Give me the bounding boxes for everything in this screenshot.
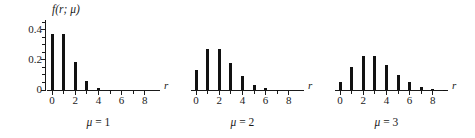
x-axis-minor-tick bbox=[398, 90, 399, 94]
bar-stem bbox=[195, 70, 198, 90]
equals-sign: = bbox=[95, 116, 102, 128]
bar-stem bbox=[350, 67, 353, 90]
x-axis-tick-label: 2 bbox=[68, 94, 82, 106]
x-axis-minor-tick bbox=[230, 90, 231, 94]
x-axis-tick-label: 0 bbox=[333, 94, 347, 106]
y-axis-label: f(r; μ) bbox=[52, 3, 80, 15]
x-axis-name: r bbox=[164, 79, 168, 91]
x-axis-tick-label: 8 bbox=[282, 94, 296, 106]
x-axis-tick-label: 4 bbox=[235, 94, 249, 106]
x-axis-tick-label: 2 bbox=[356, 94, 370, 106]
bar-stem bbox=[62, 34, 65, 90]
mu-value: 3 bbox=[393, 116, 399, 128]
y-axis-minor-tick bbox=[42, 44, 46, 45]
panel-caption: μ = 3 bbox=[326, 116, 446, 128]
bar-stem bbox=[229, 63, 232, 90]
bar-stem bbox=[97, 88, 100, 90]
y-axis-minor-tick bbox=[42, 67, 46, 68]
x-axis-minor-tick bbox=[277, 90, 278, 94]
bar-stem bbox=[431, 89, 434, 90]
y-axis-tick-label: 0 bbox=[16, 83, 42, 95]
bar-stem bbox=[408, 82, 411, 90]
bar-stem bbox=[74, 62, 77, 90]
x-axis-minor-tick bbox=[110, 90, 111, 94]
x-axis-tick-label: 2 bbox=[212, 94, 226, 106]
bar-stem bbox=[339, 82, 342, 90]
bar-stem bbox=[218, 49, 221, 90]
bar-stem bbox=[264, 88, 267, 90]
x-axis-minor-tick bbox=[351, 90, 352, 94]
x-axis-tick-label: 6 bbox=[403, 94, 417, 106]
x-axis-name: r bbox=[452, 79, 456, 91]
bar-stem bbox=[51, 34, 54, 90]
bar-stem bbox=[362, 56, 365, 90]
y-axis-minor-tick bbox=[42, 82, 46, 83]
panel-caption: μ = 2 bbox=[182, 116, 302, 128]
x-axis-name: r bbox=[308, 79, 312, 91]
y-axis-tick-label: 0.2 bbox=[16, 53, 42, 65]
y-axis-line bbox=[45, 20, 46, 91]
bar-stem bbox=[373, 56, 376, 90]
bar-stem bbox=[397, 75, 400, 90]
x-axis-minor-tick bbox=[63, 90, 64, 94]
y-axis-minor-tick bbox=[42, 52, 46, 53]
y-axis-tick-label: 0.4 bbox=[16, 23, 42, 35]
y-axis-minor-tick bbox=[42, 74, 46, 75]
x-axis-tick-label: 0 bbox=[45, 94, 59, 106]
equals-sign: = bbox=[239, 116, 246, 128]
x-axis-minor-tick bbox=[254, 90, 255, 94]
y-axis-minor-tick bbox=[42, 37, 46, 38]
mu-value: 1 bbox=[105, 116, 111, 128]
y-axis-minor-tick bbox=[42, 22, 46, 23]
x-axis-tick-label: 6 bbox=[115, 94, 129, 106]
bar-stem bbox=[420, 87, 423, 90]
equals-sign: = bbox=[383, 116, 390, 128]
x-axis-minor-tick bbox=[86, 90, 87, 94]
panel-caption: μ = 1 bbox=[38, 116, 158, 128]
bar-stem bbox=[85, 81, 88, 90]
x-axis-tick-label: 0 bbox=[189, 94, 203, 106]
bar-stem bbox=[385, 65, 388, 90]
x-axis-tick-label: 8 bbox=[426, 94, 440, 106]
x-axis-tick-label: 4 bbox=[379, 94, 393, 106]
bar-stem bbox=[241, 76, 244, 90]
bar-stem bbox=[253, 85, 256, 90]
x-axis-minor-tick bbox=[374, 90, 375, 94]
x-axis-tick-label: 4 bbox=[91, 94, 105, 106]
x-axis-tick-label: 8 bbox=[138, 94, 152, 106]
x-axis-minor-tick bbox=[421, 90, 422, 94]
mu-value: 2 bbox=[249, 116, 255, 128]
x-axis-minor-tick bbox=[207, 90, 208, 94]
x-axis-tick-label: 6 bbox=[259, 94, 273, 106]
bar-stem bbox=[206, 49, 209, 90]
poisson-distribution-figure: f(r; μ) r μ = 1 0246800.20.4 r μ = 2 024… bbox=[0, 0, 475, 138]
x-axis-minor-tick bbox=[133, 90, 134, 94]
